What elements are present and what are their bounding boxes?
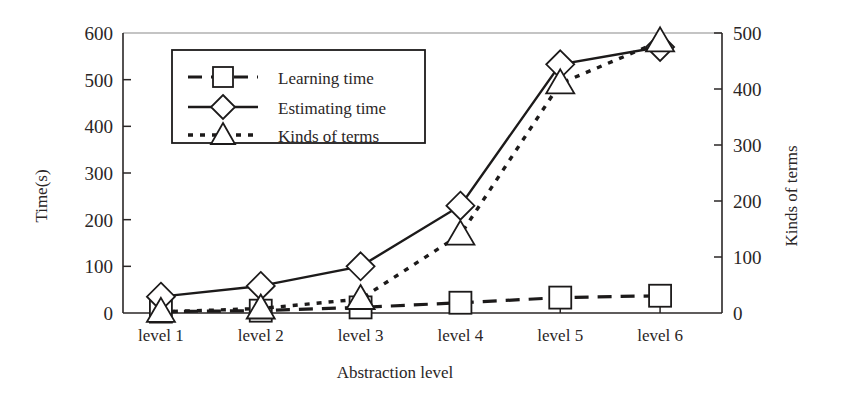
data-point-marker: [549, 287, 571, 309]
left-tick-label: 0: [104, 303, 114, 324]
right-tick-label: 400: [733, 79, 762, 100]
data-point-marker: [546, 69, 574, 93]
right-axis-ticks: 0100200300400500: [714, 23, 762, 324]
right-tick-label: 100: [733, 247, 762, 268]
line-chart: 0100200300400500600 0100200300400500 lev…: [0, 0, 843, 401]
chart-legend: Learning timeEstimating timeKinds of ter…: [172, 50, 425, 146]
legend-label: Estimating time: [278, 99, 386, 118]
data-point-marker: [446, 192, 474, 220]
chart-figure: 0100200300400500600 0100200300400500 lev…: [0, 0, 843, 401]
y-axis-title: Time(s): [32, 169, 51, 222]
right-tick-label: 300: [733, 135, 762, 156]
category-label: level 4: [438, 326, 484, 345]
left-tick-label: 200: [85, 210, 114, 231]
data-point-marker: [649, 285, 671, 307]
data-point-marker: [646, 27, 674, 51]
category-label: level 3: [338, 326, 384, 345]
right-tick-label: 500: [733, 23, 762, 44]
category-label: level 5: [537, 326, 583, 345]
left-tick-label: 500: [85, 70, 114, 91]
left-tick-label: 400: [85, 116, 114, 137]
left-tick-label: 300: [85, 163, 114, 184]
left-axis-ticks: 0100200300400500600: [85, 23, 132, 324]
left-tick-label: 600: [85, 23, 114, 44]
category-label: level 2: [238, 326, 284, 345]
data-point-marker: [347, 252, 375, 280]
legend-entries: Learning timeEstimating timeKinds of ter…: [188, 67, 386, 146]
left-tick-label: 100: [85, 256, 114, 277]
data-point-marker: [449, 292, 471, 314]
category-label: level 1: [138, 326, 184, 345]
category-label: level 6: [637, 326, 683, 345]
y2-axis-title: Kinds of terms: [782, 145, 801, 246]
legend-marker: [213, 67, 233, 87]
legend-label: Learning time: [278, 69, 374, 88]
legend-label: Kinds of terms: [278, 127, 379, 146]
right-tick-label: 0: [733, 303, 743, 324]
right-tick-label: 200: [733, 191, 762, 212]
data-point-marker: [446, 221, 474, 245]
legend-item: Learning time: [188, 67, 374, 88]
x-axis-title: Abstraction level: [337, 363, 454, 382]
